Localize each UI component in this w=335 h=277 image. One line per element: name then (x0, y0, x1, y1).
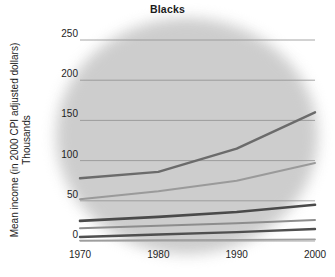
x-tick-label: 1990 (215, 249, 259, 260)
series-line-third-quintile (80, 205, 315, 221)
series-line-lowest-quintile (80, 239, 315, 240)
y-axis-label-sub: Thousands (21, 30, 33, 250)
plot-area (80, 40, 315, 241)
x-tick-label: 2000 (293, 249, 335, 260)
y-tick-label: 100 (44, 149, 78, 160)
y-axis-label-main: Mean income (in 2000 CPI adjusted dollar… (9, 30, 21, 250)
series-lines (80, 112, 315, 240)
y-tick-label: 150 (44, 108, 78, 119)
chart-container: Blacks Mean income (in 2000 CPI adjusted… (0, 0, 335, 277)
series-line-fourth-quintile (80, 163, 315, 199)
x-tick-label: 1970 (58, 249, 102, 260)
series-line-top-quintile (80, 112, 315, 178)
y-tick-label: 250 (44, 28, 78, 39)
y-tick-label: 0 (44, 229, 78, 240)
y-tick-label: 200 (44, 68, 78, 79)
plot-svg (80, 40, 315, 241)
series-line-second-quintile (80, 220, 315, 228)
y-tick-label: 50 (44, 189, 78, 200)
gridlines (80, 40, 315, 241)
chart-title: Blacks (0, 3, 335, 15)
x-axis-ticks: 1970198019902000 (0, 249, 335, 267)
series-line-first-quintile (80, 229, 315, 237)
y-axis-label: Mean income (in 2000 CPI adjusted dollar… (9, 30, 39, 250)
y-axis-ticks: 250200150100500 (40, 0, 78, 277)
x-tick-label: 1980 (136, 249, 180, 260)
